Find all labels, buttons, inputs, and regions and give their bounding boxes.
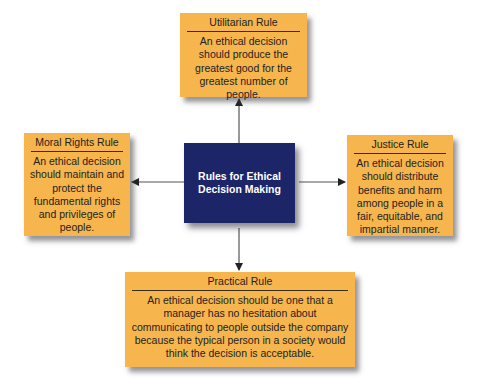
moral-rights-rule-title: Moral Rights Rule: [31, 133, 123, 152]
practical-rule-box: Practical Rule An ethical decision shoul…: [125, 272, 355, 367]
center-topic-title: Rules for Ethical Decision Making: [194, 170, 285, 196]
center-topic-box: Rules for Ethical Decision Making: [184, 143, 295, 223]
utilitarian-rule-title: Utilitarian Rule: [187, 13, 300, 32]
justice-rule-box: Justice Rule An ethical decision should …: [347, 135, 453, 236]
utilitarian-rule-box: Utilitarian Rule An ethical decision sho…: [180, 13, 307, 97]
moral-rights-rule-text: An ethical decision should maintain and …: [24, 152, 130, 235]
practical-rule-text: An ethical decision should be one that a…: [125, 291, 355, 360]
justice-rule-title: Justice Rule: [354, 135, 446, 154]
justice-rule-text: An ethical decision should distribute be…: [347, 154, 453, 237]
practical-rule-title: Practical Rule: [132, 272, 348, 291]
utilitarian-rule-text: An ethical decision should produce the g…: [180, 32, 307, 101]
moral-rights-rule-box: Moral Rights Rule An ethical decision sh…: [24, 133, 130, 236]
